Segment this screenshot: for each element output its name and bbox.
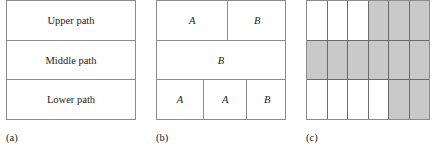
panel-c-grid-cell-r3-c6 [410,80,430,119]
panel-b: A B B A A B [156,0,286,120]
panel-c [306,0,430,120]
panel-b-row-top: A B [157,1,285,41]
panel-a: Upper path Middle path Lower path [6,0,136,120]
panel-b-cell-top-2: B [228,1,286,40]
band-upper-path-label: Upper path [48,15,95,26]
panel-c-grid-cell-r2-c6 [410,41,430,80]
panel-b-cell-bottom-3: B [247,80,287,119]
panel-c-grid-cell-r3-c4 [369,80,390,119]
panel-c-grid-row [307,41,429,81]
panel-c-grid-cell-r1-c1 [307,1,328,40]
panel-b-cell-bottom-2-label: A [222,94,228,105]
panel-c-grid-row [307,1,429,41]
figure-container: Upper path Middle path Lower path (a) A … [0,0,437,149]
panel-c-grid-cell-r3-c2 [328,80,349,119]
band-lower-path: Lower path [7,80,135,119]
panel-c-grid-cell-r1-c4 [369,1,390,40]
panel-c-grid-cell-r3-c5 [389,80,410,119]
panel-b-cell-top-2-label: B [254,15,260,26]
panel-b-cell-middle-1: B [157,41,285,80]
panel-a-box: Upper path Middle path Lower path [6,0,136,120]
panel-b-cell-bottom-2: A [204,80,247,119]
panel-c-grid-cell-r2-c1 [307,41,328,80]
band-lower-path-label: Lower path [47,94,95,105]
panel-c-grid-cell-r2-c4 [369,41,390,80]
panel-b-row-middle: B [157,41,285,81]
panel-c-grid-cell-r2-c5 [389,41,410,80]
panel-c-grid-row [307,80,429,119]
panel-b-box: A B B A A B [156,0,286,120]
panel-c-grid-cell-r2-c2 [328,41,349,80]
panel-c-grid-cell-r2-c3 [348,41,369,80]
panel-c-grid-cell-r3-c1 [307,80,328,119]
panel-c-grid-cell-r1-c2 [328,1,349,40]
caption-panel-c: (c) [306,132,318,143]
panel-b-cell-bottom-1-label: A [177,94,183,105]
panel-b-cell-bottom-3-label: B [264,94,270,105]
panel-c-box [306,0,430,120]
caption-panel-a: (a) [6,132,18,143]
band-upper-path: Upper path [7,1,135,41]
band-middle-path: Middle path [7,41,135,81]
panel-c-grid-cell-r1-c3 [348,1,369,40]
panel-b-cell-middle-1-label: B [218,55,224,66]
panel-b-cell-bottom-1: A [157,80,204,119]
panel-b-row-bottom: A A B [157,80,285,119]
panel-c-grid-cell-r1-c5 [389,1,410,40]
panel-c-grid-cell-r3-c3 [348,80,369,119]
band-middle-path-label: Middle path [45,55,96,66]
panel-b-cell-top-1: A [157,1,228,40]
panel-c-grid-cell-r1-c6 [410,1,430,40]
caption-panel-b: (b) [156,132,168,143]
panel-b-cell-top-1-label: A [189,15,195,26]
